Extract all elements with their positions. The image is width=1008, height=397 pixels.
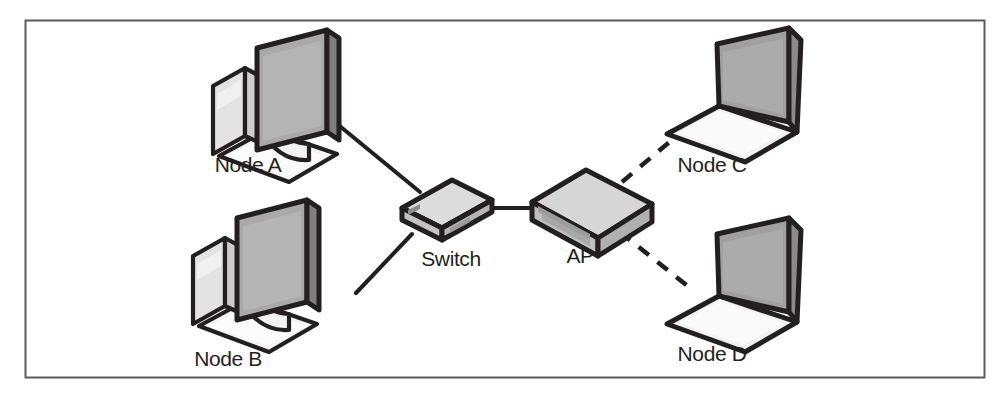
ap-label: AP <box>566 244 593 267</box>
network-diagram-figure: Node A Node B Switch AP Node C Node D <box>0 0 1008 397</box>
node-c-icon <box>667 28 801 162</box>
figure-border <box>26 21 985 378</box>
node-d-label: Node D <box>678 342 747 365</box>
link-node-b-switch <box>356 234 412 293</box>
node-b-label: Node B <box>194 347 262 370</box>
node-b-icon <box>193 200 319 352</box>
node-c-label: Node C <box>678 153 747 176</box>
node-a-label: Node A <box>215 153 282 176</box>
node-d-icon <box>667 218 801 352</box>
link-node-a-switch <box>336 123 420 192</box>
diagram-canvas: Node A Node B Switch AP Node C Node D <box>0 0 1008 397</box>
link-ap-node-d <box>620 232 690 288</box>
switch-label: Switch <box>421 247 480 270</box>
